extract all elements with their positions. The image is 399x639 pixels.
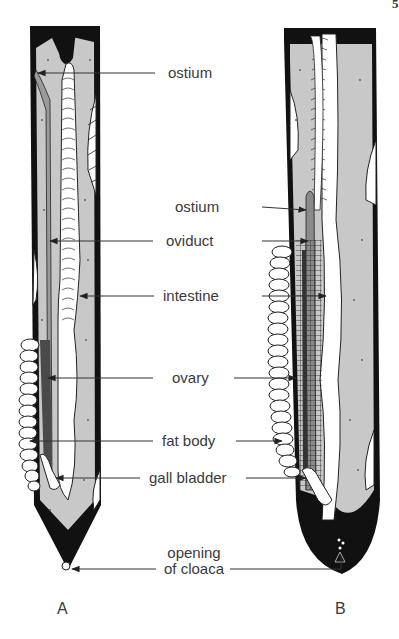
diagram: 5 xyxy=(0,0,399,639)
label-gall-bladder: gall bladder xyxy=(149,470,227,486)
specimen-b xyxy=(268,28,380,574)
cloaca-opening-a xyxy=(62,562,70,570)
panel-label-a: A xyxy=(57,600,68,618)
ovary-b xyxy=(296,240,322,490)
label-opening: opening xyxy=(167,545,220,561)
label-intestine: intestine xyxy=(163,288,219,304)
panel-label-b: B xyxy=(335,600,346,618)
label-fat-body: fat body xyxy=(162,433,215,449)
label-ostium: ostium xyxy=(175,199,219,215)
specimen-a xyxy=(19,26,101,570)
label-oviduct: oviduct xyxy=(166,233,214,249)
label-of-cloaca: of cloaca xyxy=(164,561,224,577)
label-ovary: ovary xyxy=(172,370,209,386)
label-ostium-top: ostium xyxy=(168,65,212,81)
